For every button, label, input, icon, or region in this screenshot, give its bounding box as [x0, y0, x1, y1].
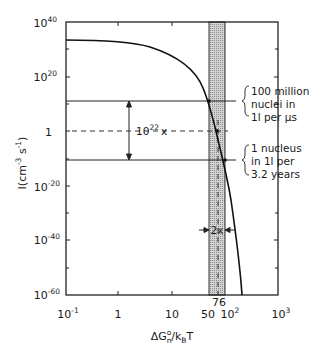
svg-text:10-60: 10-60	[34, 287, 60, 302]
svg-text:1: 1	[45, 126, 52, 139]
svg-text:50: 50	[201, 308, 215, 321]
svg-text:in 1l per: in 1l per	[251, 155, 295, 167]
svg-text:100 million: 100 million	[251, 85, 309, 97]
svg-text:10-40: 10-40	[34, 232, 60, 247]
svg-text:10: 10	[165, 308, 179, 321]
svg-text:nuclei in: nuclei in	[251, 98, 295, 110]
svg-text:1 nucleus: 1 nucleus	[251, 142, 302, 154]
span-label: 1022x	[136, 123, 167, 137]
x-ticks	[118, 22, 172, 295]
svg-text:1040: 1040	[33, 15, 57, 30]
svg-text:1: 1	[115, 308, 122, 321]
brace-icons	[242, 86, 249, 175]
svg-text:10-1: 10-1	[57, 306, 79, 321]
y-ticks	[66, 49, 278, 268]
svg-text:1020: 1020	[33, 69, 57, 84]
plot-frame	[66, 22, 278, 295]
upper-note: 100 million nuclei in 1l per µs	[251, 85, 309, 123]
y-tick-labels: 1040 1020 1 10-20 10-40 10-60	[33, 15, 60, 302]
mid-intersection	[215, 129, 219, 133]
svg-text:103: 103	[272, 306, 291, 321]
svg-text:10-20: 10-20	[34, 179, 60, 194]
x-axis-title: ΔGno/kBT	[151, 328, 194, 345]
lower-note: 1 nucleus in 1l per 3.2 years	[251, 142, 302, 180]
svg-text:3.2 years: 3.2 years	[251, 168, 300, 180]
y-axis-title: I(cm-3 s-1)	[14, 137, 29, 190]
svg-text:1l per µs: 1l per µs	[251, 111, 297, 123]
lower-intersection	[223, 158, 227, 162]
value-76-label: 76	[212, 296, 226, 309]
x-tick-labels: 10-1 1 10 50 102 103 76	[57, 296, 290, 321]
nucleation-rate-chart: 1040 1020 1 10-20 10-40 10-60 10-1 1 10 …	[0, 0, 327, 357]
factor-label: 2x	[211, 224, 224, 236]
upper-intersection	[207, 99, 211, 103]
